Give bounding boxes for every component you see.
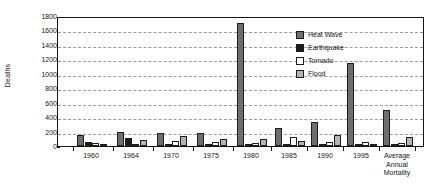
bar-chart: Deaths 020040060080010001200140016001800…: [0, 0, 432, 186]
bar: [362, 142, 369, 146]
bar: [140, 140, 147, 147]
legend-item-flood[interactable]: Flood: [296, 68, 382, 80]
y-axis-title: Deaths: [0, 0, 16, 150]
bar: [370, 144, 377, 146]
x-tick-label: Average Annual Mortality: [373, 152, 421, 178]
legend-item-label: Earthquake: [308, 44, 344, 52]
bar: [260, 139, 267, 146]
y-axis-title-label: Deaths: [5, 63, 12, 86]
bar: [275, 128, 282, 146]
bar: [383, 110, 390, 146]
y-tick-label: 1400: [27, 42, 57, 49]
flood-swatch-icon: [296, 70, 304, 78]
bar: [100, 144, 107, 146]
y-tick-label: 400: [27, 114, 57, 121]
earthquake-swatch-icon: [296, 44, 304, 52]
bar: [311, 122, 318, 146]
x-tick-mark: [271, 147, 272, 151]
legend-item-heatwave[interactable]: Heat Wave: [296, 29, 382, 41]
x-tick-mark: [153, 147, 154, 151]
bar: [334, 135, 341, 146]
legend-item-label: Heat Wave: [308, 31, 342, 39]
x-tick-mark: [113, 147, 114, 151]
x-tick-mark: [233, 147, 234, 151]
bar: [406, 137, 413, 146]
legend-item-label: Tornado: [308, 57, 333, 65]
bar: [398, 143, 405, 146]
bar: [237, 23, 244, 146]
bar: [157, 133, 164, 146]
legend-item-earthquake[interactable]: Earthquake: [296, 42, 382, 54]
x-tick-mark: [307, 147, 308, 151]
bar: [245, 144, 252, 146]
bar: [77, 135, 84, 146]
x-tick-mark: [379, 147, 380, 151]
y-tick-label: 0: [27, 143, 57, 150]
bar: [290, 137, 297, 146]
bar: [391, 144, 398, 146]
x-tick-mark: [73, 147, 74, 151]
y-tick-label: 1000: [27, 71, 57, 78]
bar: [205, 144, 212, 146]
bar: [165, 144, 172, 146]
x-tick-mark: [193, 147, 194, 151]
chart-legend: Heat WaveEarthquakeTornadoFlood: [296, 29, 382, 81]
bar: [180, 136, 187, 146]
tornado-swatch-icon: [296, 57, 304, 65]
bar: [319, 144, 326, 146]
legend-item-tornado[interactable]: Tornado: [296, 55, 382, 67]
legend-item-label: Flood: [308, 70, 326, 78]
bar: [220, 139, 227, 146]
bar: [212, 142, 219, 146]
heatwave-swatch-icon: [296, 31, 304, 39]
y-tick-label: 1200: [27, 56, 57, 63]
bar: [132, 144, 139, 146]
x-tick-mark: [415, 147, 416, 151]
y-tick-label: 1600: [27, 27, 57, 34]
y-tick-label: 200: [27, 129, 57, 136]
bar: [172, 141, 179, 146]
bar: [298, 141, 305, 146]
y-tick-label: 600: [27, 100, 57, 107]
y-axis-ticks: 020040060080010001200140016001800: [20, 0, 57, 164]
bar: [283, 144, 290, 146]
bar: [197, 133, 204, 146]
bar: [355, 144, 362, 146]
bar: [326, 142, 333, 146]
bar: [85, 142, 92, 146]
bar: [117, 132, 124, 146]
y-tick-label: 800: [27, 85, 57, 92]
y-tick-label: 1800: [27, 13, 57, 20]
bar: [125, 138, 132, 146]
bar: [252, 143, 259, 146]
bar: [92, 143, 99, 146]
x-tick-mark: [343, 147, 344, 151]
x-axis: 19601964197019751980198519901995Average …: [57, 147, 424, 186]
